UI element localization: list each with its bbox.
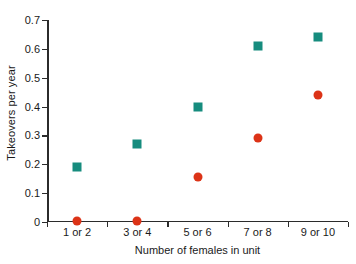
y-tick-mark — [42, 20, 47, 21]
plot-area — [47, 20, 348, 222]
y-tick-label: 0.4 — [14, 101, 40, 112]
y-tick-label: 0.6 — [14, 43, 40, 54]
y-tick-mark — [42, 49, 47, 50]
y-axis-tick-labels: 00.10.20.30.40.50.60.7 — [14, 0, 40, 264]
data-point-red-circles — [253, 134, 262, 143]
x-tick-label: 9 or 10 — [283, 226, 353, 238]
data-point-red-circles — [133, 216, 142, 225]
y-tick-mark — [42, 78, 47, 79]
data-point-teal-squares — [133, 140, 142, 149]
data-point-red-circles — [193, 173, 202, 182]
y-axis-line — [47, 20, 49, 222]
x-axis-line — [47, 221, 348, 223]
x-axis-title: Number of females in unit — [47, 244, 348, 256]
y-tick-mark — [42, 193, 47, 194]
y-tick-label: 0 — [14, 217, 40, 228]
y-tick-label: 0.5 — [14, 72, 40, 83]
y-tick-mark — [42, 135, 47, 136]
x-axis-tick-labels: 1 or 23 or 45 or 67 or 89 or 10 — [47, 226, 348, 240]
data-point-teal-squares — [253, 41, 262, 50]
y-tick-label: 0.1 — [14, 188, 40, 199]
y-tick-mark — [42, 107, 47, 108]
data-point-teal-squares — [193, 102, 202, 111]
y-tick-mark — [42, 164, 47, 165]
scatter-chart: Takeovers per year 00.10.20.30.40.50.60.… — [0, 0, 356, 264]
y-tick-label: 0.3 — [14, 130, 40, 141]
data-point-teal-squares — [313, 33, 322, 42]
data-point-red-circles — [73, 216, 82, 225]
y-tick-label: 0.2 — [14, 159, 40, 170]
data-point-teal-squares — [73, 163, 82, 172]
y-tick-label: 0.7 — [14, 15, 40, 26]
data-point-red-circles — [313, 91, 322, 100]
